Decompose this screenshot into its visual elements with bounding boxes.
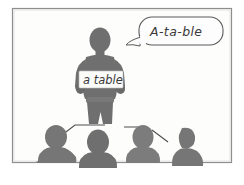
student-2-head	[87, 130, 109, 155]
teacher-head	[90, 28, 111, 53]
speech-bubble-text-value: A-ta-ble	[149, 24, 202, 39]
classroom-illustration: Teacher showing a flashcard to students	[0, 0, 244, 185]
student-3-head	[133, 125, 154, 149]
speech-bubble-text: A-ta-ble	[149, 24, 202, 39]
flashcard-text: a table	[83, 73, 123, 87]
student-4-head	[179, 128, 195, 148]
student-1-head	[45, 125, 67, 149]
flashcard-text-value: a table	[83, 73, 123, 87]
flashcard: a table	[79, 71, 123, 88]
illustration-panel: Teacher showing a flashcard to students	[0, 0, 244, 185]
speech-bubble-seam	[140, 36, 146, 44]
